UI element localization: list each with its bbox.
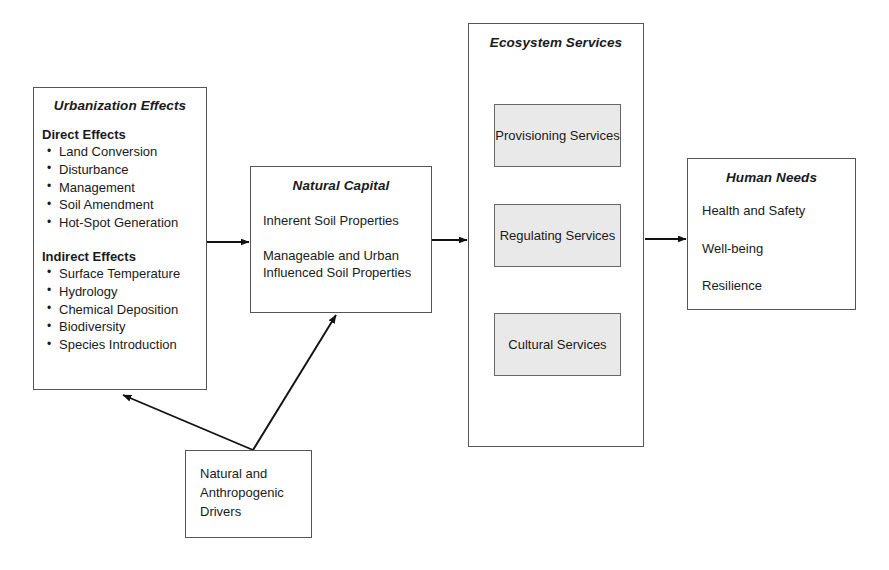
list-item: Hydrology xyxy=(42,283,198,301)
provisioning-services-box: Provisioning Services xyxy=(494,104,621,167)
ecosystem-services-box: Ecosystem Services Provisioning Services… xyxy=(468,23,644,447)
list-item: Species Introduction xyxy=(42,336,198,354)
natural-capital-title: Natural Capital xyxy=(263,178,419,193)
drivers-box: Natural and Anthropogenic Drivers xyxy=(185,450,312,538)
arrow-drivers-to-natural-capital xyxy=(253,315,336,450)
drivers-line: Natural and xyxy=(200,465,311,484)
human-needs-line: Health and Safety xyxy=(702,202,841,220)
regulating-services-label: Regulating Services xyxy=(500,227,616,244)
ecosystem-services-title: Ecosystem Services xyxy=(469,35,643,50)
list-item: Soil Amendment xyxy=(42,196,198,214)
list-item: Biodiversity xyxy=(42,318,198,336)
indirect-effects-list: Surface Temperature Hydrology Chemical D… xyxy=(42,265,198,354)
human-needs-line: Well-being xyxy=(702,240,841,258)
natural-capital-box: Natural Capital Inherent Soil Properties… xyxy=(250,166,432,313)
indirect-effects-group: Indirect Effects Surface Temperature Hyd… xyxy=(42,249,198,354)
drivers-line: Drivers xyxy=(200,503,311,522)
urbanization-effects-box: Urbanization Effects Direct Effects Land… xyxy=(33,87,207,390)
cultural-services-label: Cultural Services xyxy=(508,336,606,353)
natural-capital-line: Manageable and Urban Influenced Soil Pro… xyxy=(263,247,419,282)
list-item: Chemical Deposition xyxy=(42,301,198,319)
direct-effects-list: Land Conversion Disturbance Management S… xyxy=(42,143,198,232)
list-item: Management xyxy=(42,179,198,197)
arrow-drivers-to-urbanization-effects xyxy=(123,395,253,450)
urbanization-effects-title: Urbanization Effects xyxy=(42,98,198,113)
cultural-services-box: Cultural Services xyxy=(494,313,621,376)
natural-capital-line: Inherent Soil Properties xyxy=(263,212,419,230)
human-needs-box: Human Needs Health and Safety Well-being… xyxy=(687,158,856,310)
direct-effects-heading: Direct Effects xyxy=(42,127,198,142)
regulating-services-box: Regulating Services xyxy=(494,204,621,267)
list-item: Surface Temperature xyxy=(42,265,198,283)
direct-effects-group: Direct Effects Land Conversion Disturban… xyxy=(42,127,198,232)
human-needs-title: Human Needs xyxy=(702,170,841,185)
provisioning-services-label: Provisioning Services xyxy=(495,127,619,144)
list-item: Hot-Spot Generation xyxy=(42,214,198,232)
diagram-canvas: Urbanization Effects Direct Effects Land… xyxy=(0,0,889,570)
list-item: Disturbance xyxy=(42,161,198,179)
human-needs-line: Resilience xyxy=(702,277,841,295)
indirect-effects-heading: Indirect Effects xyxy=(42,249,198,264)
drivers-line: Anthropogenic xyxy=(200,484,311,503)
list-item: Land Conversion xyxy=(42,143,198,161)
